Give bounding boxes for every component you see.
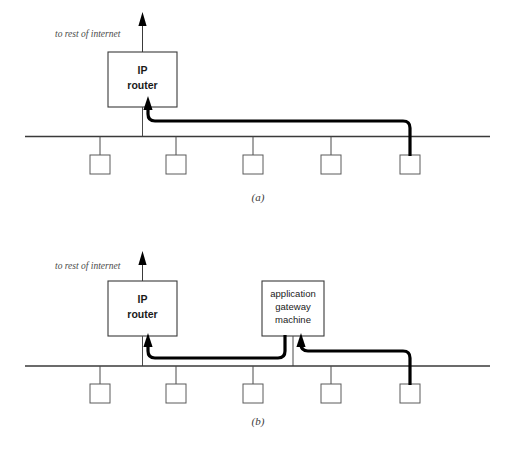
device-label-line-2: router <box>127 308 157 320</box>
device-ip-router-b[interactable]: IP router <box>108 281 177 336</box>
panel-caption-b: (b) <box>252 415 265 428</box>
device-label-line-2: gateway <box>275 301 311 312</box>
uplink-arrow-b <box>138 251 146 284</box>
diagram-panel-a: to rest of internet IP router (a) <box>0 0 516 225</box>
host-node-screened[interactable] <box>400 384 420 403</box>
host-node-screened[interactable] <box>400 155 420 174</box>
screened-cable-a <box>143 96 410 156</box>
host-node[interactable] <box>321 155 341 174</box>
device-label-line-1: IP <box>138 293 148 305</box>
device-label-line-2: router <box>127 79 157 91</box>
host-node[interactable] <box>90 384 110 403</box>
device-label-line-1: application <box>270 288 315 299</box>
network-firewall-figure: to rest of internet IP router (a) <box>0 0 516 449</box>
host-node[interactable] <box>90 155 110 174</box>
device-label-line-3: machine <box>275 314 311 325</box>
host-node[interactable] <box>166 155 186 174</box>
uplink-arrow-a <box>138 12 146 55</box>
annotation-to-rest-of-internet-a: to rest of internet <box>55 29 121 39</box>
device-application-gateway-machine[interactable]: application gateway machine <box>262 281 324 336</box>
diagram-panel-b: to rest of internet IP router applicatio… <box>0 225 516 449</box>
host-node[interactable] <box>166 384 186 403</box>
panel-caption-a: (a) <box>252 191 265 204</box>
host-node[interactable] <box>243 155 263 174</box>
host-node[interactable] <box>321 384 341 403</box>
device-ip-router-a[interactable]: IP router <box>108 52 177 107</box>
device-label-line-1: IP <box>138 64 148 76</box>
screened-host-to-gateway-cable <box>296 333 410 385</box>
gateway-to-router-cable <box>143 333 285 358</box>
annotation-to-rest-of-internet-b: to rest of internet <box>55 261 121 271</box>
host-node[interactable] <box>243 384 263 403</box>
